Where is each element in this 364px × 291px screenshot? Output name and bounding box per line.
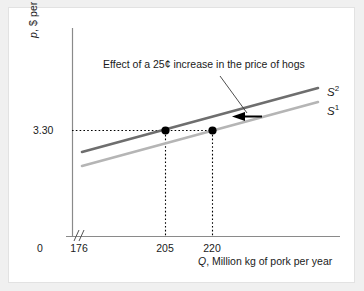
x-tick-label-0: 0	[33, 243, 47, 254]
y-axis-label: p, $ per kg	[28, 0, 39, 38]
curve-label-s2-base: S	[327, 86, 335, 98]
curve-label-s2: S2	[327, 85, 339, 98]
supply-curve-s1	[82, 102, 318, 166]
y-tick-label-330: 3.30	[33, 125, 53, 136]
curve-label-s1-base: S	[327, 105, 335, 117]
data-point-205	[161, 126, 169, 134]
annotation-text: Effect of a 25¢ increase in the price of…	[103, 59, 305, 70]
curve-label-s2-sup: 2	[335, 84, 339, 93]
x-tick-label-205: 205	[148, 243, 182, 254]
chart-canvas	[0, 0, 364, 291]
axis-break-icon	[74, 230, 84, 241]
annotation-leader-line	[220, 76, 247, 113]
x-axis-label-rest: , Million kg of pork per year	[206, 255, 332, 267]
y-axis-label-rest: , $ per kg	[27, 0, 39, 32]
curve-label-s1: S1	[327, 104, 339, 117]
y-axis-label-symbol: p	[27, 32, 39, 38]
x-axis-label-symbol: Q	[198, 255, 206, 267]
x-tick-label-176: 176	[62, 243, 96, 254]
x-tick-label-220: 220	[195, 243, 229, 254]
curve-label-s1-sup: 1	[335, 103, 339, 112]
data-point-220	[208, 126, 216, 134]
x-axis-label: Q, Million kg of pork per year	[198, 256, 332, 267]
supply-curve-figure: p, $ per kg Q, Million kg of pork per ye…	[0, 0, 364, 291]
supply-curve-s2	[82, 88, 318, 152]
